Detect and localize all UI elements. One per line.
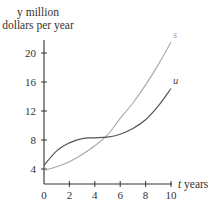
- x-tick-label: 0: [41, 189, 47, 201]
- x-tick-label: 10: [166, 189, 178, 201]
- x-tick-label: 4: [92, 189, 98, 201]
- line-chart: y million dollars per year 4 8 12 16 20 …: [0, 0, 218, 208]
- series-u-line: [44, 89, 171, 166]
- y-axis-title-line2: dollars per year: [2, 19, 74, 32]
- x-tick-label: 8: [143, 189, 149, 201]
- series-s-line: [44, 42, 171, 170]
- x-axis-title: t years: [178, 178, 209, 191]
- x-tick-label: 6: [117, 189, 123, 201]
- x-axis-unit: years: [181, 178, 209, 191]
- series-s-label: s: [173, 29, 177, 40]
- y-tick-label: 16: [25, 76, 37, 88]
- y-tick-label: 12: [25, 105, 36, 117]
- y-tick-label: 4: [31, 163, 37, 175]
- x-tick-label: 2: [67, 189, 73, 201]
- y-axis-title-line1: y million: [17, 6, 59, 19]
- y-tick-label: 20: [25, 47, 37, 59]
- series-u-label: u: [173, 75, 178, 86]
- y-tick-label: 8: [31, 134, 37, 146]
